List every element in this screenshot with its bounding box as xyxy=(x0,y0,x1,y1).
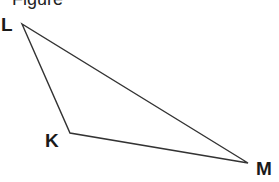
vertex-label-m: M xyxy=(256,158,272,180)
triangle-diagram xyxy=(0,0,279,182)
vertex-label-k: K xyxy=(45,130,59,152)
vertex-label-l: L xyxy=(1,14,13,36)
